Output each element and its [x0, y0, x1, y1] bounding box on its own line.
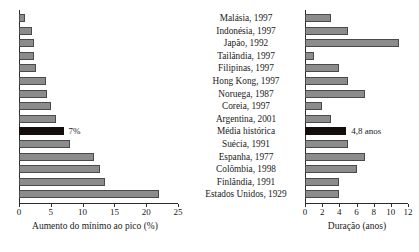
bar	[305, 115, 331, 123]
category-label: Suécia, 1991	[190, 139, 302, 149]
category-label: Finlândia, 1991	[190, 177, 302, 187]
bar	[19, 178, 105, 186]
bar	[305, 77, 348, 85]
x-axis-tick-label: 0	[303, 207, 308, 217]
plot-area-left: 05101520257%	[0, 0, 190, 252]
category-label: Indonésia, 1997	[190, 26, 302, 36]
x-axis-tick-label: 10	[78, 207, 87, 217]
x-axis-tick-label: 10	[386, 207, 395, 217]
category-label: Hong Kong, 1997	[190, 76, 302, 86]
category-label: Coreia, 1997	[190, 101, 302, 111]
x-axis-title-right: Duração (anos)	[295, 221, 419, 232]
x-axis-title-left: Aumento do mínimo ao pico (%)	[0, 221, 190, 232]
bar	[305, 39, 399, 47]
x-axis-tick-label: 25	[174, 207, 183, 217]
x-axis-line	[19, 203, 178, 204]
bar	[305, 14, 331, 22]
x-axis-tick-label: 20	[142, 207, 151, 217]
chart-right: 0246810124,8 anos Duração (anos)	[295, 0, 419, 252]
x-axis-tick-label: 5	[49, 207, 54, 217]
category-label: Média histórica	[190, 126, 302, 136]
bar	[19, 153, 94, 161]
bar	[305, 140, 348, 148]
bar-highlighted	[19, 127, 64, 135]
bar	[19, 190, 159, 198]
bar	[19, 115, 56, 123]
chart-left: 05101520257% Aumento do mínimo ao pico (…	[0, 0, 190, 252]
bar	[19, 39, 34, 47]
category-label: Malásia, 1997	[190, 13, 302, 23]
bar	[305, 165, 357, 173]
category-label: Tailândia, 1997	[190, 51, 302, 61]
bar	[19, 14, 25, 22]
bar-highlighted	[305, 127, 346, 135]
bar	[305, 52, 314, 60]
x-axis-tick-label: 0	[17, 207, 22, 217]
category-label: Colômbia, 1998	[190, 164, 302, 174]
bar	[305, 190, 339, 198]
bar	[305, 27, 348, 35]
x-axis-tick-label: 15	[110, 207, 119, 217]
x-axis-tick-label: 6	[354, 207, 359, 217]
category-label: Estados Unidos, 1929	[190, 189, 302, 199]
x-axis-tick-label: 8	[371, 207, 376, 217]
x-axis-tick-label: 12	[404, 207, 413, 217]
bar	[19, 140, 70, 148]
bar	[305, 102, 322, 110]
x-axis-tick-label: 2	[320, 207, 325, 217]
bar	[19, 52, 34, 60]
bar	[305, 153, 365, 161]
category-label: Espanha, 1977	[190, 152, 302, 162]
bar	[19, 90, 47, 98]
category-label: Argentina, 2001	[190, 114, 302, 124]
bar	[19, 27, 32, 35]
x-axis-tick-label: 4	[337, 207, 342, 217]
bar	[19, 102, 51, 110]
bar	[305, 90, 365, 98]
bar	[19, 77, 46, 85]
plot-area-right: 0246810124,8 anos	[295, 0, 419, 252]
bar	[305, 64, 339, 72]
bar-value-annotation: 4,8 anos	[351, 126, 381, 136]
category-label: Noruega, 1987	[190, 89, 302, 99]
category-label: Filipinas, 1997	[190, 63, 302, 73]
category-label: Japão, 1992	[190, 38, 302, 48]
category-label-column: Malásia, 1997Indonésia, 1997Japão, 1992T…	[190, 0, 302, 252]
bar	[19, 165, 100, 173]
bar	[19, 64, 36, 72]
bar-value-annotation: 7%	[69, 126, 81, 136]
figure: 05101520257% Aumento do mínimo ao pico (…	[0, 0, 419, 252]
bar	[305, 178, 339, 186]
